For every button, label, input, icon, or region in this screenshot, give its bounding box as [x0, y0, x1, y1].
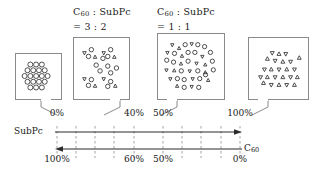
callout-box-1 — [73, 37, 130, 100]
particle-field-2 — [158, 34, 224, 99]
ratio-line-2: = 1 : 1 — [157, 21, 191, 32]
bottom-tick-label-1: 60% — [124, 154, 144, 164]
ratio-label-callout-2: C60 : SubPc = 1 : 1 — [157, 6, 215, 32]
ratio-line-1: C60 : SubPc — [157, 6, 215, 17]
particle-field-1 — [74, 38, 129, 99]
ratio-line-2: = 3 : 2 — [73, 21, 107, 32]
figure-canvas: C60 : SubPc = 3 : 2 C60 : SubPc = 1 : 1 — [0, 0, 322, 175]
particle-field-0 — [16, 54, 61, 99]
bottom-tick-label-0: 100% — [44, 154, 70, 164]
callout-box-3 — [248, 37, 309, 100]
ratio-line-1: C60 : SubPc — [73, 6, 131, 17]
callout-box-0 — [15, 53, 62, 100]
callout-box-2 — [157, 33, 225, 100]
ratio-label-callout-1: C60 : SubPc = 3 : 2 — [73, 6, 131, 32]
particle-field-3 — [249, 38, 308, 99]
composition-axis: 0% 40% 50% 100% SubPc C60 — [0, 108, 322, 175]
bottom-tick-label-2: 50% — [153, 154, 173, 164]
axis-graphics — [0, 108, 322, 175]
bottom-tick-label-3: 0% — [233, 154, 247, 164]
